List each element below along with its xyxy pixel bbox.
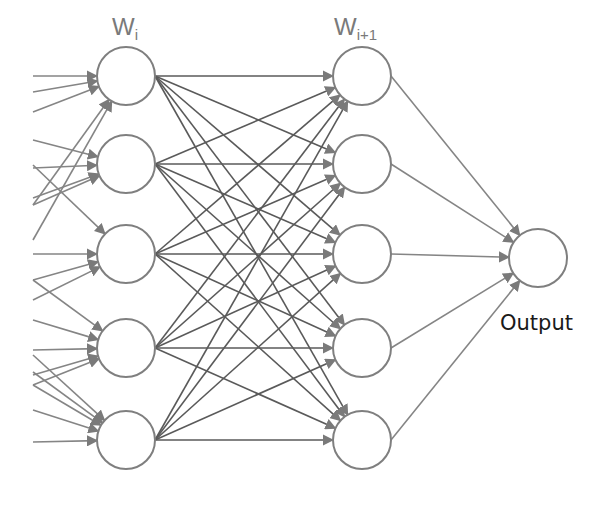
input-edge xyxy=(33,441,97,442)
output-edges xyxy=(391,76,520,440)
input-edge xyxy=(33,165,97,168)
neural-network-diagram: Wi Wi+1 Output xyxy=(0,0,604,505)
hidden-edge xyxy=(155,76,348,415)
layer-i-plus-1-node-5 xyxy=(333,411,391,469)
hidden-edges xyxy=(155,76,348,440)
hidden-edge xyxy=(155,164,340,329)
output-edge xyxy=(391,281,520,440)
layer-i-node-2 xyxy=(97,135,155,193)
layer-i-node-5 xyxy=(97,411,155,469)
input-edge xyxy=(33,100,109,205)
layer-i-plus-1-node-3 xyxy=(333,225,391,283)
hidden-edge xyxy=(155,76,335,153)
layer-i-label: Wi xyxy=(112,13,138,43)
layer-i-plus-1-label: Wi+1 xyxy=(334,13,377,43)
hidden-edge xyxy=(155,360,335,440)
layer-i-plus-1-node-4 xyxy=(333,319,391,377)
layer-i-node-4 xyxy=(97,319,155,377)
output-node-1 xyxy=(509,229,567,287)
output-label: Output xyxy=(500,311,573,335)
nodes xyxy=(97,47,567,469)
input-edge xyxy=(33,174,99,198)
hidden-edge xyxy=(155,183,340,348)
input-edge xyxy=(33,267,100,300)
layer-i-plus-1-node-1 xyxy=(333,47,391,105)
hidden-edge xyxy=(155,76,340,235)
layer-i-node-1 xyxy=(97,47,155,105)
hidden-edge xyxy=(155,164,345,417)
output-edge xyxy=(391,76,520,235)
layer-i-plus-1-node-2 xyxy=(333,135,391,193)
hidden-edge xyxy=(155,76,344,325)
input-edge xyxy=(33,385,101,425)
hidden-edge xyxy=(155,187,345,440)
layer-i-node-3 xyxy=(97,225,155,283)
input-edge xyxy=(33,320,98,340)
input-edge xyxy=(33,262,98,280)
hidden-edge xyxy=(155,99,344,348)
input-edge xyxy=(33,372,103,423)
input-edge xyxy=(33,349,97,350)
output-edge xyxy=(391,164,514,242)
hidden-edge xyxy=(155,254,340,421)
hidden-edge xyxy=(155,273,340,440)
output-edge xyxy=(391,254,509,257)
